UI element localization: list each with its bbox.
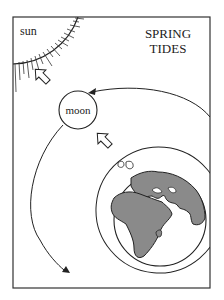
gravity-arrow-moon-to-sun-icon [30, 64, 53, 87]
earth-icon [111, 161, 206, 266]
sun-label: sun [20, 24, 37, 38]
moon-label: moon [65, 104, 91, 116]
gravity-arrow-earth-to-moon-icon [92, 128, 115, 151]
title-line-1: SPRING [145, 26, 191, 41]
orbit-arrow-lower-icon [31, 125, 70, 273]
orbit-arrow-upper-icon [88, 88, 210, 117]
spring-tides-diagram: sun SPRING TIDES moon [0, 0, 224, 300]
title-line-2: TIDES [150, 41, 187, 56]
